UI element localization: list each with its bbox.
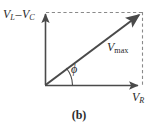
phasor-diagram-figure: VL–VC Vmax VR ϕ (b) bbox=[0, 0, 158, 130]
x-axis-label-subscript: R bbox=[139, 96, 144, 105]
phase-angle-label: ϕ bbox=[71, 63, 77, 75]
x-axis-label: VR bbox=[132, 91, 144, 105]
resultant-vector-label-subscript: max bbox=[114, 46, 128, 55]
y-axis-label-operator: – bbox=[15, 7, 22, 21]
resultant-vector-label: Vmax bbox=[107, 41, 128, 55]
figure-caption: (b) bbox=[0, 108, 158, 123]
y-axis-label: VL–VC bbox=[3, 8, 35, 22]
y-axis-label-term2-subscript: C bbox=[29, 13, 34, 22]
